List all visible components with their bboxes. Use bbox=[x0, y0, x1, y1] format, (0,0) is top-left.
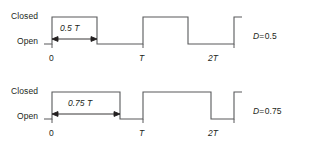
x-tick-label-0: 0 bbox=[49, 53, 54, 63]
dimension-annotation-text: 0.5 T bbox=[60, 23, 79, 33]
duty-equals: = bbox=[259, 31, 264, 41]
x-tick-2T-italic: 2T bbox=[208, 53, 218, 63]
panel-duty-75: Closed Open 0 T 2T 0.75 T D= 0.75 bbox=[0, 75, 310, 149]
duty-value: 0.5 bbox=[265, 31, 277, 41]
dimension-annotation-label: 0.5 T bbox=[60, 23, 79, 33]
y-axis-low-label: Open bbox=[17, 111, 38, 121]
dimension-annotation-text: 0.75 T bbox=[68, 98, 92, 108]
x-tick-T-italic: T bbox=[139, 53, 144, 63]
duty-equals: = bbox=[259, 106, 264, 116]
duty-cycle-label: D= 0.75 bbox=[253, 106, 281, 116]
x-tick-label-T: T bbox=[139, 53, 144, 63]
y-axis-high-label: Closed bbox=[11, 11, 38, 21]
y-axis-low-label: Open bbox=[17, 36, 38, 46]
x-tick-label-2T: 2T bbox=[208, 128, 218, 138]
panel-duty-50: Closed Open 0 T 2T 0.5 T D= 0.5 bbox=[0, 0, 310, 74]
y-axis-high-label: Closed bbox=[11, 86, 38, 96]
dimension-annotation-label: 0.75 T bbox=[68, 98, 92, 108]
duty-value: 0.75 bbox=[265, 106, 282, 116]
x-tick-label-T: T bbox=[139, 128, 144, 138]
duty-cycle-label: D= 0.5 bbox=[253, 31, 277, 41]
duty-cycle-figure: Closed Open 0 T 2T 0.5 T D= 0.5 bbox=[0, 0, 310, 149]
x-tick-label-0: 0 bbox=[49, 128, 54, 138]
x-tick-T-italic: T bbox=[139, 128, 144, 138]
x-tick-label-2T: 2T bbox=[208, 53, 218, 63]
x-tick-2T-italic: 2T bbox=[208, 128, 218, 138]
